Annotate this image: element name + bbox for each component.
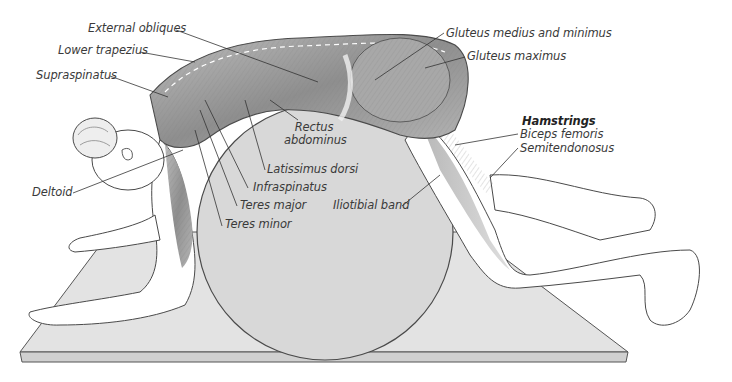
anatomy-figure: External obliques Lower trapezius Supras… <box>0 0 732 382</box>
label-rectus-abdominus: Rectus abdominus <box>284 121 344 147</box>
illustration <box>0 0 732 382</box>
label-latissimus-dorsi: Latissimus dorsi <box>267 163 358 176</box>
label-teres-minor: Teres minor <box>225 218 291 231</box>
label-deltoid: Deltoid <box>32 186 72 199</box>
head <box>73 118 164 190</box>
label-gluteus-maximus: Gluteus maximus <box>467 50 566 63</box>
label-teres-major: Teres major <box>240 199 306 212</box>
label-supraspinatus: Supraspinatus <box>36 69 117 82</box>
label-iliotibial-band: Iliotibial band <box>333 199 409 212</box>
label-rectus-line2: abdominus <box>284 134 344 147</box>
label-semitendonosus: Semitendonosus <box>520 142 614 155</box>
far-leg <box>490 175 655 240</box>
label-lower-trapezius: Lower trapezius <box>58 44 148 57</box>
label-infraspinatus: Infraspinatus <box>253 181 327 194</box>
label-biceps-femoris: Biceps femoris <box>520 128 603 141</box>
label-gluteus-medius-minimus: Gluteus medius and minimus <box>446 27 612 40</box>
label-external-obliques: External obliques <box>88 22 186 35</box>
